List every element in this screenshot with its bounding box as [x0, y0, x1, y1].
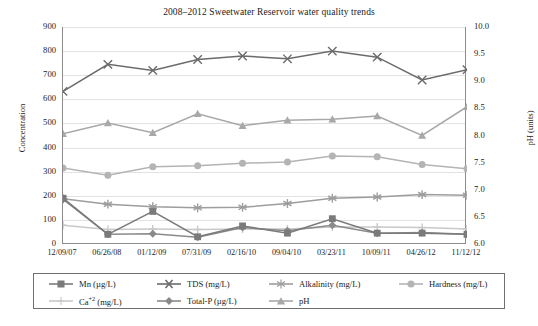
series-tds-mg-l-	[63, 47, 467, 96]
legend-item-ph[interactable]: pH	[268, 295, 310, 307]
square-marker-icon	[48, 278, 74, 290]
series-canvas	[63, 27, 467, 244]
triangle-marker-icon	[268, 295, 294, 307]
series-mn-g-l-	[63, 195, 467, 240]
y-tick-label-right: 7.5	[474, 157, 514, 167]
x-tick-label: 11/12/12	[436, 248, 496, 257]
legend-item-ca[interactable]: Ca+2 (mg/L)	[48, 295, 156, 307]
legend-label-alkalinity: Alkalinity (mg/L)	[299, 280, 360, 289]
legend-label-total-p: Total-P (µg/L)	[187, 297, 237, 306]
legend-label-ph: pH	[299, 297, 310, 306]
x-marker-icon	[156, 278, 182, 290]
chart-figure: 2008–2012 Sweetwater Reservoir water qua…	[0, 0, 538, 326]
series-total-p-g-l-	[63, 195, 467, 241]
y-tick-label-right: 10.0	[474, 21, 514, 31]
y-tick-label-left: 0	[16, 238, 56, 248]
legend-label-ca: Ca+2 (mg/L)	[79, 296, 122, 306]
y-tick-label-left: 300	[16, 166, 56, 176]
series-ca-mg-l-	[63, 221, 467, 233]
y-tick-label-left: 900	[16, 21, 56, 31]
legend-item-mn[interactable]: Mn (µg/L)	[48, 278, 156, 290]
legend-item-hardness[interactable]: Hardness (mg/L)	[398, 278, 487, 290]
y-tick-label-left: 400	[16, 142, 56, 152]
legend: Mn (µg/L) TDS (mg/L) Alkalinity (mg/L) H…	[33, 273, 505, 309]
y-tick-label-left: 500	[16, 117, 56, 127]
series-hardness-mg-l-	[63, 152, 467, 178]
y-tick-label-right: 6.0	[474, 238, 514, 248]
legend-label-tds: TDS (mg/L)	[187, 280, 230, 289]
legend-label-mn: Mn (µg/L)	[79, 280, 116, 289]
legend-row-1: Mn (µg/L) TDS (mg/L) Alkalinity (mg/L) H…	[34, 275, 504, 293]
plus-marker-icon	[48, 295, 74, 307]
legend-item-tds[interactable]: TDS (mg/L)	[156, 278, 268, 290]
y-tick-label-right: 9.0	[474, 75, 514, 85]
y-tick-label-left: 200	[16, 190, 56, 200]
y-tick-label-left: 600	[16, 93, 56, 103]
y-tick-label-right: 7.0	[474, 184, 514, 194]
series-alkalinity-mg-l-	[63, 190, 467, 212]
y-tick-label-right: 8.5	[474, 102, 514, 112]
y-tick-label-right: 8.0	[474, 130, 514, 140]
y-tick-label-right: 9.5	[474, 48, 514, 58]
circle-marker-icon	[398, 278, 424, 290]
y-tick-label-right: 6.5	[474, 211, 514, 221]
legend-item-total-p[interactable]: Total-P (µg/L)	[156, 295, 268, 307]
y-tick-label-left: 800	[16, 45, 56, 55]
legend-row-2: Ca+2 (mg/L) Total-P (µg/L) pH	[34, 292, 504, 310]
series-ph	[63, 103, 467, 139]
chart-title: 2008–2012 Sweetwater Reservoir water qua…	[0, 7, 538, 17]
y-tick-label-left: 700	[16, 69, 56, 79]
y-tick-label-left: 100	[16, 214, 56, 224]
asterisk-marker-icon	[268, 278, 294, 290]
diamond-marker-icon	[156, 295, 182, 307]
plot-area	[62, 27, 466, 244]
legend-label-ca-tail: (mg/L)	[95, 297, 122, 307]
legend-item-alkalinity[interactable]: Alkalinity (mg/L)	[268, 278, 398, 290]
legend-label-hardness: Hardness (mg/L)	[429, 280, 487, 289]
y-axis-title-right: pH (units)	[525, 68, 535, 188]
